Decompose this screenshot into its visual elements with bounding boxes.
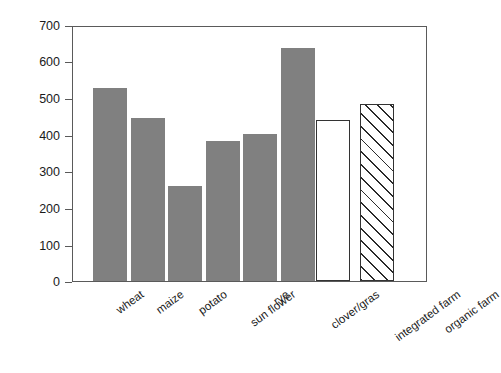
bar-integrated-farm [316, 120, 350, 281]
y-tick-mark-300 [65, 172, 72, 173]
y-tick-mark-200 [65, 209, 72, 210]
y-tick-label-0: 0 [20, 276, 60, 288]
x-tick-label-integrated-farm: integrated farm [393, 288, 463, 343]
x-tick-label-wheat: wheat [114, 288, 146, 316]
plot-area [72, 26, 427, 282]
y-tick-label-500: 500 [20, 93, 60, 105]
bar-clover-gras [281, 48, 315, 281]
bar-organic-farm [360, 104, 394, 281]
y-tick-mark-600 [65, 62, 72, 63]
y-tick-label-600: 600 [20, 56, 60, 68]
y-tick-mark-100 [65, 246, 72, 247]
y-tick-label-400: 400 [20, 130, 60, 142]
bar-maize [131, 118, 165, 281]
y-tick-label-100: 100 [20, 240, 60, 252]
y-tick-mark-700 [65, 26, 72, 27]
x-tick-label-sun-flower: sun flower [248, 288, 297, 329]
bar-wheat [93, 88, 127, 281]
x-tick-label-potato: potato [196, 288, 229, 317]
bar-rye [243, 134, 277, 281]
y-tick-mark-0 [65, 282, 72, 283]
y-tick-label-700: 700 [20, 20, 60, 32]
x-tick-label-clover-gras: clover/gras [329, 288, 382, 331]
y-tick-mark-400 [65, 136, 72, 137]
bar-sun-flower [206, 141, 240, 281]
x-tick-label-maize: maize [154, 288, 186, 316]
bar-potato [168, 186, 202, 281]
y-tick-label-300: 300 [20, 166, 60, 178]
y-tick-label-200: 200 [20, 203, 60, 215]
y-tick-mark-500 [65, 99, 72, 100]
